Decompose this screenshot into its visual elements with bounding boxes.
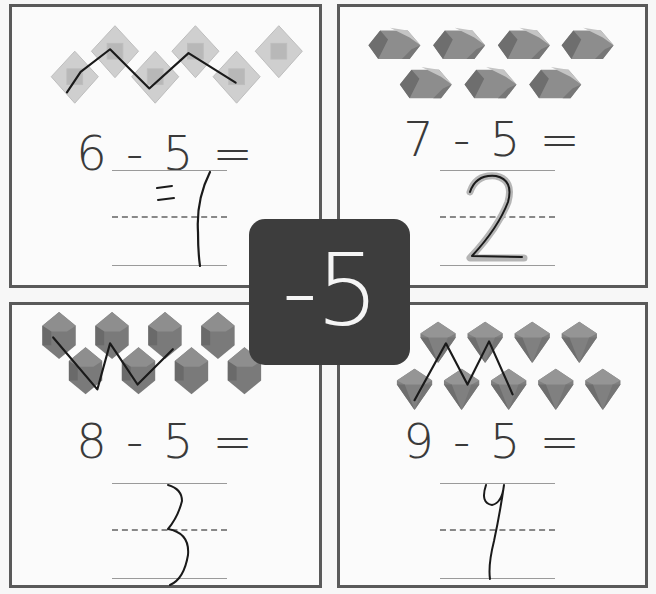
handwritten-answer-1 bbox=[112, 170, 227, 270]
gem-icon bbox=[255, 26, 302, 78]
gem-icon bbox=[585, 369, 620, 410]
gem-icon bbox=[465, 67, 517, 98]
equation-text: 8 - 5 = bbox=[12, 413, 319, 469]
answer-writing-lines[interactable] bbox=[112, 483, 227, 583]
gem-icon bbox=[562, 322, 597, 363]
answer-writing-lines[interactable] bbox=[112, 170, 227, 270]
equation-text: 9 - 5 = bbox=[340, 413, 645, 469]
gem-icon bbox=[42, 312, 75, 359]
gem-icon bbox=[368, 28, 420, 59]
gem-icon bbox=[467, 322, 502, 363]
flat-hexagon-gems-group bbox=[340, 7, 645, 117]
gem-icon bbox=[538, 369, 573, 410]
gem-icon bbox=[95, 312, 128, 359]
gem-icon bbox=[515, 322, 550, 363]
gem-icon bbox=[498, 28, 550, 59]
gem-icon bbox=[175, 347, 208, 394]
answer-writing-lines[interactable] bbox=[440, 170, 555, 270]
gem-icon bbox=[51, 51, 98, 103]
gem-icon bbox=[213, 51, 260, 103]
handwritten-answer-2 bbox=[440, 170, 555, 270]
handwritten-answer-4 bbox=[440, 483, 555, 583]
gem-icon bbox=[529, 67, 581, 98]
gem-icon bbox=[201, 312, 234, 359]
gem-icon bbox=[148, 312, 181, 359]
minus-five-badge: -5 bbox=[249, 219, 410, 365]
gem-icon bbox=[172, 26, 219, 78]
gem-icon bbox=[397, 369, 432, 410]
badge-label: -5 bbox=[282, 232, 378, 349]
equation-text: 7 - 5 = bbox=[340, 111, 645, 167]
gem-icon bbox=[400, 67, 452, 98]
gem-icon bbox=[491, 369, 526, 410]
gem-icon bbox=[433, 28, 485, 59]
handwritten-answer-3 bbox=[112, 483, 227, 583]
light-diamond-gems-group bbox=[12, 7, 319, 117]
gem-icon bbox=[562, 28, 614, 59]
answer-writing-lines[interactable] bbox=[440, 483, 555, 583]
